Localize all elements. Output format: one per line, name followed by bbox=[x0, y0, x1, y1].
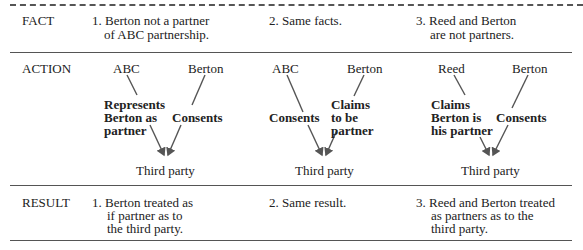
arrow-2-left-lower bbox=[308, 125, 322, 155]
diagram-3-left-action-line3: his partner bbox=[431, 124, 493, 138]
diagram-2-right-action-line3: partner bbox=[331, 124, 374, 138]
arrow-2-right-upper bbox=[354, 75, 364, 96]
diagram-3-target: Third party bbox=[461, 164, 520, 178]
result-3-line3: third party. bbox=[431, 222, 488, 236]
row-label-result: RESULT bbox=[22, 196, 70, 210]
diagram-2-target: Third party bbox=[295, 164, 354, 178]
result-1-line3: the third party. bbox=[107, 222, 183, 236]
arrow-3-right-lower bbox=[493, 125, 508, 155]
diagram-1-right-party: Berton bbox=[188, 62, 223, 76]
arrow-3-left-lower bbox=[480, 137, 489, 155]
diagram-3-right-action: Consents bbox=[496, 111, 547, 125]
diagram-1-target: Third party bbox=[136, 164, 195, 178]
diagram-1-left-party: ABC bbox=[113, 62, 140, 76]
diagram-3-right-party: Berton bbox=[512, 62, 547, 76]
diagram-1-right-action: Consents bbox=[172, 111, 223, 125]
diagram-2-left-action: Consents bbox=[269, 111, 320, 125]
arrow-1-left-upper bbox=[127, 75, 137, 95]
arrow-3-left-upper bbox=[454, 75, 465, 95]
arrow-1-right-lower bbox=[168, 125, 181, 155]
arrow-1-left-lower bbox=[150, 125, 164, 155]
diagram-2-right-party: Berton bbox=[347, 62, 382, 76]
arrow-3-right-upper bbox=[512, 75, 528, 108]
diagram-2-left-party: ABC bbox=[272, 62, 299, 76]
diagram-3-left-party: Reed bbox=[438, 62, 465, 76]
result-2-line1: 2. Same result. bbox=[269, 196, 346, 210]
arrow-2-left-upper bbox=[287, 75, 303, 112]
diagram-1-left-action-line3: partner bbox=[104, 124, 147, 138]
arrow-1-right-upper bbox=[192, 75, 205, 105]
